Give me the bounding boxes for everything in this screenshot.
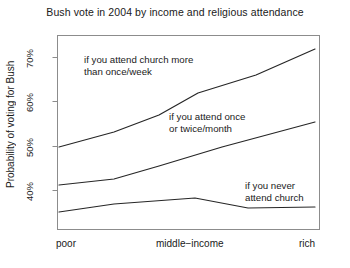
- y-tick-marks: [53, 58, 58, 191]
- annotation-attend-monthly-line2: or twice/month: [169, 123, 245, 135]
- chart-figure: Bush vote in 2004 by income and religiou…: [0, 0, 350, 268]
- annotation-attend-weekly-line1: if you attend church more: [84, 54, 193, 66]
- annotation-attend-weekly: if you attend church more than once/week: [84, 54, 193, 77]
- annotation-never-attend-line1: if you never: [245, 180, 304, 192]
- annotation-attend-monthly: if you attend once or twice/month: [169, 111, 245, 134]
- annotation-attend-weekly-line2: than once/week: [84, 66, 193, 78]
- annotation-never-attend-line2: attend church: [245, 192, 304, 204]
- annotation-attend-monthly-line1: if you attend once: [169, 111, 245, 123]
- plot-area: [0, 0, 350, 268]
- annotation-never-attend: if you never attend church: [245, 180, 304, 203]
